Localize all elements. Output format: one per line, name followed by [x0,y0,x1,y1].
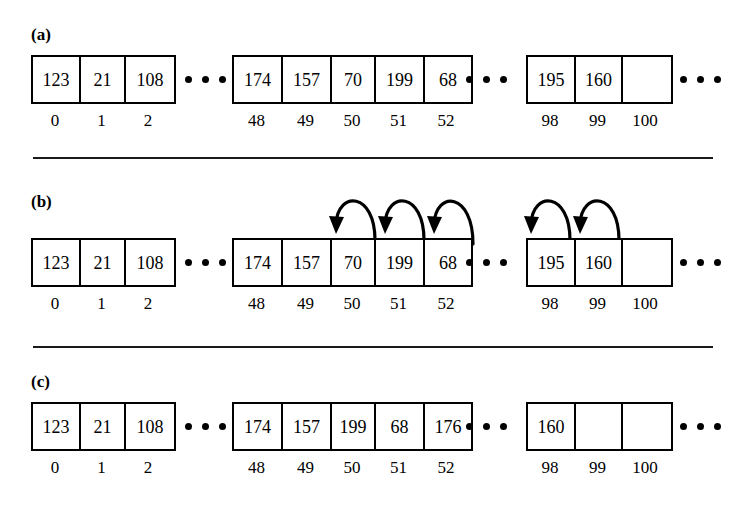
array-index: 1 [79,295,124,312]
panel-c: (c) 123 21 108 0 1 2 174 157 199 68 176 … [0,347,746,510]
panel-a-group-right: 195 160 [526,55,673,104]
ellipsis-icon [466,259,507,266]
panel-a-group-middle: 174 157 70 199 68 [232,55,473,104]
array-index: 50 [330,459,374,476]
array-cell: 68 [376,404,425,449]
panel-b-label: (b) [31,192,52,212]
array-cell: 199 [376,240,425,285]
panel-c-group-right: 160 [526,402,673,451]
array-index: 50 [330,295,374,312]
array-index: 52 [423,112,469,129]
array-index: 0 [31,112,79,129]
array-cell: 199 [332,404,376,449]
array-cell: 160 [528,404,576,449]
array-cell: 70 [332,57,376,102]
panel-a-index-row-right: 98 99 100 [526,112,669,129]
array-index: 100 [621,459,669,476]
array-index: 2 [124,112,172,129]
array-cell: 21 [81,240,126,285]
array-index: 100 [621,295,669,312]
ellipsis-icon [466,76,507,83]
panel-a: (a) 123 21 108 0 1 2 174 157 70 199 68 4… [0,0,746,157]
array-index: 98 [526,112,574,129]
ellipsis-icon [680,259,721,266]
array-shift-figure: (a) 123 21 108 0 1 2 174 157 70 199 68 4… [0,0,746,510]
array-index: 48 [232,295,281,312]
array-index: 1 [79,459,124,476]
array-index: 51 [374,112,423,129]
array-cell-empty [576,404,623,449]
ellipsis-icon [185,423,226,430]
array-index: 99 [574,295,621,312]
array-cell: 68 [425,57,471,102]
array-cell: 160 [576,240,623,285]
panel-b-group-right: 195 160 [526,238,673,287]
panel-c-index-row-middle: 48 49 50 51 52 [232,459,469,476]
panel-b-index-row-left: 0 1 2 [31,295,172,312]
array-cell: 68 [425,240,471,285]
array-index: 100 [621,112,669,129]
array-cell: 176 [425,404,471,449]
array-cell: 195 [528,57,576,102]
array-cell: 108 [126,404,174,449]
array-index: 52 [423,295,469,312]
panel-b: (b) [0,158,746,346]
panel-b-index-row-middle: 48 49 50 51 52 [232,295,469,312]
array-cell: 195 [528,240,576,285]
array-cell: 108 [126,57,174,102]
array-index: 52 [423,459,469,476]
array-index: 48 [232,459,281,476]
panel-c-index-row-right: 98 99 100 [526,459,669,476]
array-index: 99 [574,459,621,476]
panel-a-label: (a) [31,25,51,45]
array-cell: 157 [283,404,332,449]
panel-b-group-left: 123 21 108 [31,238,176,287]
array-cell: 123 [33,404,81,449]
array-cell-empty [623,57,671,102]
array-cell: 157 [283,240,332,285]
array-index: 51 [374,459,423,476]
array-cell: 108 [126,240,174,285]
array-cell: 199 [376,57,425,102]
panel-a-group-left: 123 21 108 [31,55,176,104]
panel-c-group-middle: 174 157 199 68 176 [232,402,473,451]
array-index: 49 [281,112,330,129]
array-cell: 160 [576,57,623,102]
array-cell: 21 [81,404,126,449]
array-cell: 174 [234,57,283,102]
panel-c-group-left: 123 21 108 [31,402,176,451]
array-index: 48 [232,112,281,129]
panel-b-group-middle: 174 157 70 199 68 [232,238,473,287]
panel-c-label: (c) [31,372,50,392]
ellipsis-icon [185,76,226,83]
array-cell: 174 [234,240,283,285]
array-index: 0 [31,459,79,476]
array-index: 49 [281,295,330,312]
array-cell: 123 [33,240,81,285]
ellipsis-icon [680,423,721,430]
array-index: 2 [124,295,172,312]
array-cell: 174 [234,404,283,449]
panel-a-index-row-left: 0 1 2 [31,112,172,129]
array-cell: 123 [33,57,81,102]
array-index: 1 [79,112,124,129]
array-cell: 157 [283,57,332,102]
panel-a-index-row-middle: 48 49 50 51 52 [232,112,469,129]
ellipsis-icon [466,423,507,430]
array-index: 99 [574,112,621,129]
array-index: 0 [31,295,79,312]
panel-b-index-row-right: 98 99 100 [526,295,669,312]
array-cell: 70 [332,240,376,285]
array-index: 50 [330,112,374,129]
array-index: 98 [526,459,574,476]
panel-c-index-row-left: 0 1 2 [31,459,172,476]
array-cell: 21 [81,57,126,102]
array-index: 51 [374,295,423,312]
array-index: 2 [124,459,172,476]
array-cell-empty [623,404,671,449]
array-cell-empty [623,240,671,285]
ellipsis-icon [680,76,721,83]
array-index: 49 [281,459,330,476]
array-index: 98 [526,295,574,312]
ellipsis-icon [185,259,226,266]
